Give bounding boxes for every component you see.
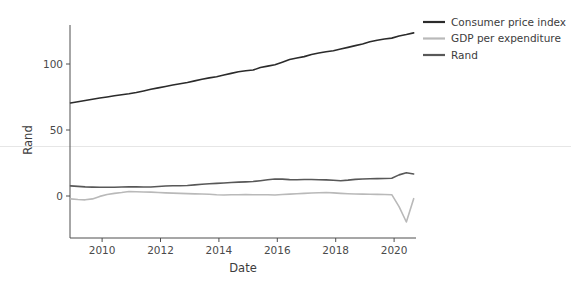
y-axis-tick-labels: 050100 xyxy=(43,58,63,202)
x-tick-label: 2018 xyxy=(322,244,349,256)
x-axis-tick-labels: 201020122014201620182020 xyxy=(89,244,408,256)
x-tick-label: 2020 xyxy=(381,244,408,256)
legend-label-1: GDP per expenditure xyxy=(451,32,561,44)
legend-label-0: Consumer price index xyxy=(451,16,566,28)
legend-label-2: Rand xyxy=(451,49,478,61)
x-tick-label: 2014 xyxy=(206,244,233,256)
series-line-rand xyxy=(71,173,414,188)
y-axis-title: Rand xyxy=(21,125,35,154)
y-tick-label: 0 xyxy=(56,190,63,202)
x-tick-label: 2016 xyxy=(264,244,291,256)
x-axis-ticks xyxy=(102,238,394,242)
line-chart-canvas: 050100 201020122014201620182020 Rand Dat… xyxy=(0,0,571,292)
y-axis-ticks xyxy=(66,64,70,196)
series-line-gdp-per-expenditure xyxy=(71,192,414,222)
chart-figure: 050100 201020122014201620182020 Rand Dat… xyxy=(0,0,571,292)
chart-legend: Consumer price indexGDP per expenditureR… xyxy=(423,16,566,61)
series-line-consumer-price-index xyxy=(71,33,414,103)
x-tick-label: 2010 xyxy=(89,244,116,256)
y-tick-label: 100 xyxy=(43,58,63,70)
x-axis-title: Date xyxy=(229,261,257,275)
x-tick-label: 2012 xyxy=(147,244,174,256)
y-tick-label: 50 xyxy=(50,124,63,136)
data-series-group xyxy=(71,33,414,222)
